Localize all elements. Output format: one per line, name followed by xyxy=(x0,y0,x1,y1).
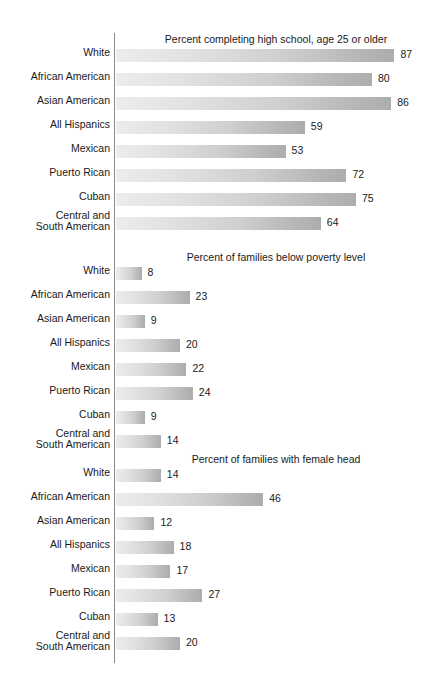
bar-row: Central andSouth American64 xyxy=(0,215,441,239)
bar-row: Puerto Rican24 xyxy=(0,385,441,409)
bar-rows: White14African American46Asian American1… xyxy=(0,467,441,659)
panel-title: Percent completing high school, age 25 o… xyxy=(116,33,436,45)
bar xyxy=(116,493,263,506)
bar-row: African American80 xyxy=(0,71,441,95)
bar-row: Mexican53 xyxy=(0,143,441,167)
bar xyxy=(116,145,286,158)
bar-value-label: 18 xyxy=(180,540,192,553)
bar-value-label: 9 xyxy=(151,314,157,327)
category-label: African American xyxy=(0,71,110,82)
bar-value-label: 80 xyxy=(378,72,390,85)
category-label: White xyxy=(0,467,110,478)
bar xyxy=(116,193,356,206)
bar-row: All Hispanics59 xyxy=(0,119,441,143)
bar xyxy=(116,97,391,110)
bar xyxy=(116,49,394,62)
category-label: Asian American xyxy=(0,313,110,324)
bar-value-label: 14 xyxy=(167,468,179,481)
category-label: African American xyxy=(0,491,110,502)
bar-value-label: 22 xyxy=(192,362,204,375)
category-label: Central andSouth American xyxy=(0,210,110,232)
bar xyxy=(116,121,305,134)
bar xyxy=(116,589,202,602)
bar-row: Puerto Rican27 xyxy=(0,587,441,611)
bar-value-label: 8 xyxy=(148,266,154,279)
category-label: All Hispanics xyxy=(0,119,110,130)
bar xyxy=(116,217,321,230)
bar-value-label: 23 xyxy=(196,290,208,303)
category-label: Central andSouth American xyxy=(0,630,110,652)
category-label: Asian American xyxy=(0,515,110,526)
bar-value-label: 64 xyxy=(327,216,339,229)
bar xyxy=(116,363,186,376)
bar-value-label: 20 xyxy=(186,636,198,649)
bar-value-label: 75 xyxy=(362,192,374,205)
bar-rows: White8African American23Asian American9A… xyxy=(0,265,441,457)
category-label: Puerto Rican xyxy=(0,385,110,396)
bar-row: Asian American86 xyxy=(0,95,441,119)
category-label: All Hispanics xyxy=(0,337,110,348)
bar-row: African American23 xyxy=(0,289,441,313)
bar-row: Asian American9 xyxy=(0,313,441,337)
bar xyxy=(116,541,174,554)
panel-title: Percent of families with female head xyxy=(116,453,436,465)
bar xyxy=(116,267,142,280)
bar xyxy=(116,435,161,448)
bar xyxy=(116,565,170,578)
bar xyxy=(116,613,158,626)
bar-value-label: 24 xyxy=(199,386,211,399)
bar xyxy=(116,315,145,328)
bar xyxy=(116,469,161,482)
bar-row: Central andSouth American20 xyxy=(0,635,441,659)
bar-row: Puerto Rican72 xyxy=(0,167,441,191)
bar-value-label: 17 xyxy=(176,564,188,577)
bar-value-label: 12 xyxy=(160,516,172,529)
bar xyxy=(116,73,372,86)
bar-value-label: 86 xyxy=(397,96,409,109)
bar-value-label: 27 xyxy=(208,588,220,601)
bar-row: All Hispanics20 xyxy=(0,337,441,361)
category-label: Central andSouth American xyxy=(0,428,110,450)
bar xyxy=(116,411,145,424)
bar-value-label: 87 xyxy=(400,48,412,61)
bar-value-label: 9 xyxy=(151,410,157,423)
category-label: Mexican xyxy=(0,563,110,574)
bar-row: White8 xyxy=(0,265,441,289)
category-label: All Hispanics xyxy=(0,539,110,550)
bar xyxy=(116,339,180,352)
category-label: Cuban xyxy=(0,409,110,420)
bar-row: African American46 xyxy=(0,491,441,515)
bar-value-label: 13 xyxy=(164,612,176,625)
bar-value-label: 72 xyxy=(352,168,364,181)
category-label: African American xyxy=(0,289,110,300)
category-label: Cuban xyxy=(0,191,110,202)
bar-row: White87 xyxy=(0,47,441,71)
category-label: White xyxy=(0,265,110,276)
category-label: Asian American xyxy=(0,95,110,106)
bar-value-label: 20 xyxy=(186,338,198,351)
bar-row: Mexican17 xyxy=(0,563,441,587)
panel-title: Percent of families below poverty level xyxy=(116,251,436,263)
category-label: Cuban xyxy=(0,611,110,622)
bar-row: Mexican22 xyxy=(0,361,441,385)
bar-row: White14 xyxy=(0,467,441,491)
bar-value-label: 14 xyxy=(167,434,179,447)
category-label: Puerto Rican xyxy=(0,587,110,598)
bar xyxy=(116,517,154,530)
bar xyxy=(116,169,346,182)
category-label: Puerto Rican xyxy=(0,167,110,178)
category-label: Mexican xyxy=(0,143,110,154)
bar-row: Asian American12 xyxy=(0,515,441,539)
category-label: Mexican xyxy=(0,361,110,372)
bar xyxy=(116,637,180,650)
bar-value-label: 59 xyxy=(311,120,323,133)
category-label: White xyxy=(0,47,110,58)
bar-row: All Hispanics18 xyxy=(0,539,441,563)
bar-value-label: 46 xyxy=(269,492,281,505)
bar-rows: White87African American80Asian American8… xyxy=(0,47,441,239)
bar xyxy=(116,387,193,400)
bar xyxy=(116,291,190,304)
bar-value-label: 53 xyxy=(292,144,304,157)
chart-figure: Percent completing high school, age 25 o… xyxy=(0,0,441,695)
